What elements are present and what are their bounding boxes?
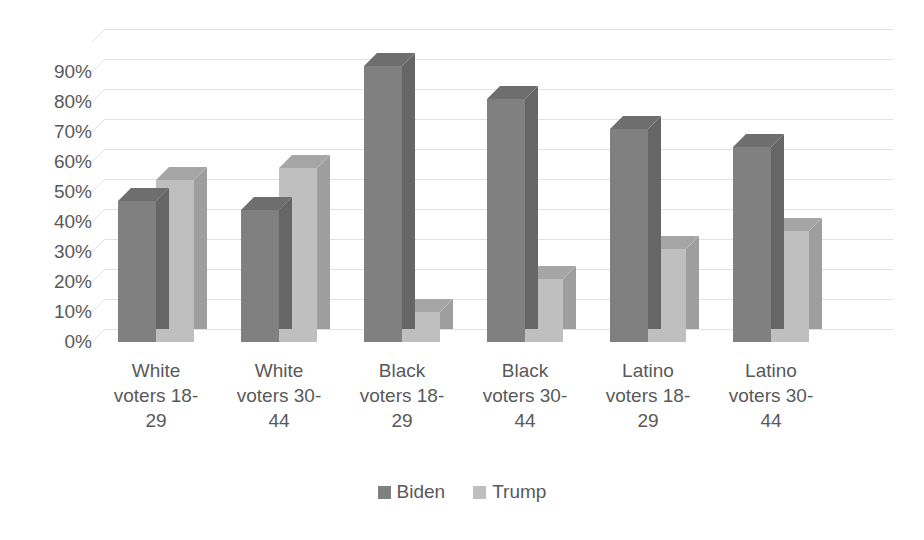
bar-side-face (194, 167, 207, 329)
y-axis-tick-label: 10% (18, 302, 92, 321)
bar-side-face (648, 116, 661, 329)
x-axis-label-3: Blackvoters 30-44 (465, 358, 585, 433)
legend-label: Trump (492, 481, 546, 503)
x-axis-label-line: voters 30- (465, 383, 585, 408)
x-axis-label-line: 44 (711, 408, 831, 433)
gridline (105, 29, 893, 30)
x-axis-label-line: 29 (588, 408, 708, 433)
bar-side-face (317, 155, 330, 329)
chart-legend: BidenTrump (0, 480, 924, 503)
legend-swatch-icon (378, 486, 391, 499)
x-axis-label-line: 29 (96, 408, 216, 433)
x-axis-label-0: Whitevoters 18-29 (96, 358, 216, 433)
x-axis-label-line: 29 (342, 408, 462, 433)
bar-front-face (241, 210, 279, 342)
y-axis-tick-label: 40% (18, 212, 92, 231)
bar-biden-1[interactable] (241, 210, 279, 342)
legend-label: Biden (397, 481, 446, 503)
y-axis-tick-label: 60% (18, 152, 92, 171)
y-axis-tick-label: 20% (18, 272, 92, 291)
x-axis-label-5: Latinovoters 30-44 (711, 358, 831, 433)
bar-front-face (364, 66, 402, 342)
x-axis-label-4: Latinovoters 18-29 (588, 358, 708, 433)
x-axis-label-line: Black (465, 358, 585, 383)
x-axis-label-line: voters 18- (96, 383, 216, 408)
x-axis-label-line: White (219, 358, 339, 383)
bar-front-face (487, 99, 525, 342)
x-axis-label-line: Black (342, 358, 462, 383)
y-axis-tick-label: 80% (18, 92, 92, 111)
x-axis-label-line: 44 (219, 408, 339, 433)
x-axis-label-line: 44 (465, 408, 585, 433)
x-axis-category-labels: Whitevoters 18-29Whitevoters 30-44Blackv… (0, 358, 924, 458)
y-axis-tick-label: 90% (18, 62, 92, 81)
bar-front-face (610, 129, 648, 342)
bar-front-face (118, 201, 156, 342)
bar-biden-4[interactable] (610, 129, 648, 342)
bar-side-face (771, 134, 784, 329)
bar-biden-0[interactable] (118, 201, 156, 342)
x-axis-label-1: Whitevoters 30-44 (219, 358, 339, 433)
x-axis-label-line: voters 30- (711, 383, 831, 408)
legend-swatch-icon (473, 486, 486, 499)
x-axis-label-2: Blackvoters 18-29 (342, 358, 462, 433)
bar-biden-2[interactable] (364, 66, 402, 342)
legend-item-trump[interactable]: Trump (473, 481, 546, 503)
x-axis-label-line: voters 30- (219, 383, 339, 408)
x-axis-label-line: voters 18- (342, 383, 462, 408)
bar-side-face (402, 53, 415, 329)
bar-side-face (156, 188, 169, 329)
x-axis-label-line: voters 18- (588, 383, 708, 408)
y-axis-tick-label: 30% (18, 242, 92, 261)
bar-side-face (525, 86, 538, 329)
y-axis-tick-label: 50% (18, 182, 92, 201)
x-axis-label-line: White (96, 358, 216, 383)
bar-side-face (279, 197, 292, 329)
x-axis-label-line: Latino (711, 358, 831, 383)
bar-biden-3[interactable] (487, 99, 525, 342)
bar-biden-5[interactable] (733, 147, 771, 342)
chart-container: 90%80%70%60%50%40%30%20%10%0% Whitevoter… (0, 0, 924, 540)
bar-side-face (809, 218, 822, 329)
gridline (105, 59, 893, 60)
legend-item-biden[interactable]: Biden (378, 481, 446, 503)
x-axis-label-line: Latino (588, 358, 708, 383)
bar-side-face (686, 236, 699, 329)
y-axis-tick-label: 70% (18, 122, 92, 141)
y-axis-tick-label: 0% (18, 332, 92, 351)
bar-front-face (733, 147, 771, 342)
